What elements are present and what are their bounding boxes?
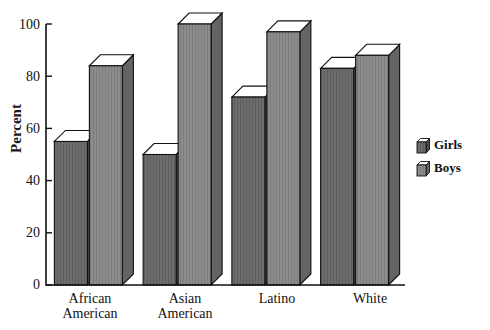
- boys-swatch: [417, 162, 430, 177]
- boys-swatch-front: [417, 165, 426, 176]
- bar-boys-asian-american-front: [178, 24, 211, 285]
- bar-boys-african-american-side: [122, 55, 133, 285]
- bar-boys-latino-side: [300, 21, 311, 285]
- bar-boys-white-front: [356, 55, 389, 285]
- plot-area: [0, 0, 490, 330]
- bar-boys-latino: [267, 21, 311, 285]
- bar-boys-asian-american-side: [211, 13, 222, 285]
- bar-girls-white-front: [321, 68, 354, 285]
- bar-boys-white: [356, 44, 400, 285]
- bar-boys-african-american-front: [89, 66, 122, 285]
- bar-boys-african-american: [89, 55, 133, 285]
- bar-chart: Percent 100 80 60 40 20 0 African Americ…: [0, 0, 490, 330]
- bar-girls-asian-american-front: [143, 155, 176, 286]
- girls-swatch-front: [417, 142, 426, 153]
- bar-boys-latino-front: [267, 32, 300, 285]
- bars-layer: [54, 13, 399, 285]
- bar-girls-african-american-front: [54, 141, 87, 285]
- bar-girls-latino-front: [232, 97, 265, 285]
- bar-boys-white-side: [389, 44, 400, 285]
- bar-boys-asian-american: [178, 13, 222, 285]
- girls-swatch: [417, 139, 430, 154]
- legend-swatch-layer: [417, 139, 430, 177]
